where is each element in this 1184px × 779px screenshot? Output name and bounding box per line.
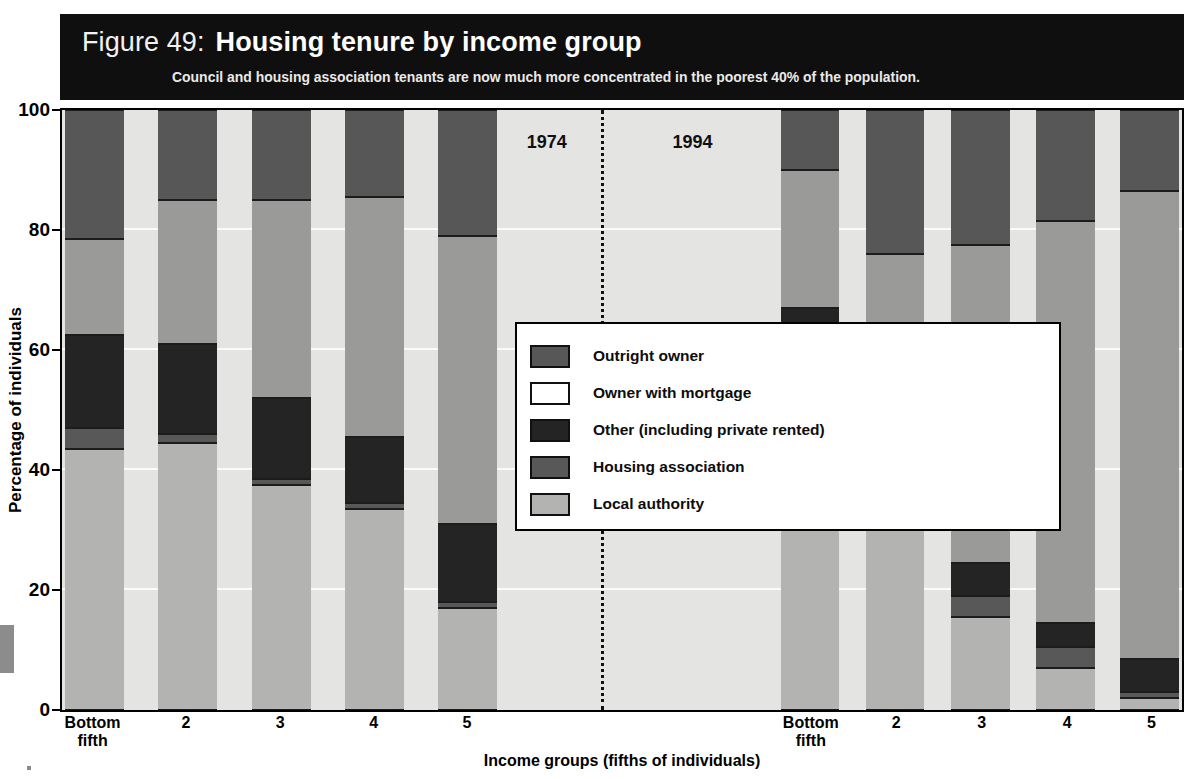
bar-segment-housing-association [65, 428, 123, 449]
bar-segment-owner-mortgage [158, 200, 216, 344]
legend-swatch-icon [530, 345, 570, 368]
legend-swatch-icon [530, 493, 570, 516]
page-corner-artifact [27, 766, 31, 770]
legend-item-other: Other (including private rented) [530, 410, 825, 450]
stacked-bar [345, 110, 403, 710]
plot-area: 19741994 Outright ownerOwner with mortga… [60, 108, 1184, 712]
x-tick-label: 2 [181, 714, 190, 732]
bar-segment-owner-mortgage [438, 236, 496, 524]
bar-segment-outright-owner [866, 110, 924, 254]
x-tick-label: 3 [276, 714, 285, 732]
y-tick-mark [52, 109, 60, 111]
bar-segment-owner-mortgage [65, 239, 123, 335]
stacked-bar [65, 110, 123, 710]
year-label-1974: 1974 [527, 132, 567, 153]
bar-segment-local-authority [345, 509, 403, 710]
legend-swatch-icon [530, 419, 570, 442]
stacked-bar [252, 110, 310, 710]
figure-header-banner: Figure 49:Housing tenure by income group… [60, 14, 1184, 100]
legend-item-local-authority: Local authority [530, 484, 704, 524]
bar-segment-outright-owner [951, 110, 1009, 245]
bar-segment-owner-mortgage [781, 170, 839, 308]
bar-segment-other [1036, 623, 1094, 647]
legend-label: Outright owner [593, 347, 704, 365]
x-axis-label: Income groups (fifths of individuals) [60, 752, 1184, 770]
y-tick-label: 20 [29, 579, 50, 601]
title-row: Figure 49:Housing tenure by income group [82, 27, 642, 58]
figure-subtitle: Council and housing association tenants … [172, 68, 920, 85]
bar-segment-other [65, 335, 123, 428]
legend-item-owner-with-mortgage: Owner with mortgage [530, 373, 751, 413]
gridline [62, 228, 1182, 230]
chart-legend: Outright ownerOwner with mortgageOther (… [515, 322, 1061, 531]
bar-segment-housing-association [158, 434, 216, 443]
x-tick-label: 3 [977, 714, 986, 732]
y-tick-label: 40 [29, 459, 50, 481]
x-tick-label: 2 [892, 714, 901, 732]
bar-segment-outright-owner [345, 110, 403, 197]
x-axis-ticks: Bottom fifth2345Bottom fifth2345 [60, 714, 1184, 754]
y-tick-label: 60 [29, 339, 50, 361]
bar-segment-local-authority [65, 449, 123, 710]
y-tick-label: 80 [29, 219, 50, 241]
bar-segment-owner-mortgage [252, 200, 310, 398]
legend-label: Local authority [593, 495, 704, 513]
y-tick-mark [52, 229, 60, 231]
bar-segment-local-authority [158, 443, 216, 710]
bar-segment-owner-mortgage [1120, 191, 1178, 659]
bar-segment-housing-association [1120, 692, 1178, 698]
bar-segment-outright-owner [781, 110, 839, 170]
bar-segment-outright-owner [1120, 110, 1178, 191]
bar-segment-local-authority [438, 608, 496, 710]
legend-item-outright-owner: Outright owner [530, 336, 704, 376]
x-tick-label: 5 [1147, 714, 1156, 732]
x-tick-label: 4 [369, 714, 378, 732]
bar-segment-local-authority [951, 617, 1009, 710]
bar-segment-other [252, 398, 310, 479]
bar-segment-local-authority [1036, 668, 1094, 710]
bar-segment-outright-owner [252, 110, 310, 200]
y-tick-mark [52, 589, 60, 591]
legend-label: Other (including private rented) [593, 421, 825, 439]
y-tick-mark [52, 469, 60, 471]
stacked-bar [438, 110, 496, 710]
y-tick-mark [52, 709, 60, 711]
bar-segment-other [158, 344, 216, 434]
y-axis-ticks: 020406080100 [0, 108, 60, 712]
bar-segment-housing-association [438, 602, 496, 608]
legend-label: Housing association [593, 458, 745, 476]
year-label-1994: 1994 [672, 132, 712, 153]
bar-segment-other [951, 563, 1009, 596]
legend-label: Owner with mortgage [593, 384, 751, 402]
bar-segment-housing-association [951, 596, 1009, 617]
bar-segment-other [438, 524, 496, 602]
legend-swatch-icon [530, 382, 570, 405]
x-tick-label: Bottom fifth [65, 714, 121, 750]
gridline [62, 588, 1182, 590]
legend-swatch-icon [530, 456, 570, 479]
y-tick-mark [52, 349, 60, 351]
page-title: Housing tenure by income group [216, 27, 642, 57]
bar-segment-local-authority [866, 509, 924, 710]
bar-segment-outright-owner [158, 110, 216, 200]
x-tick-label: 5 [462, 714, 471, 732]
y-tick-label: 0 [39, 699, 50, 721]
bar-segment-local-authority [1120, 698, 1178, 710]
legend-item-housing-association: Housing association [530, 447, 745, 487]
figure-container: Figure 49:Housing tenure by income group… [0, 0, 1184, 779]
bar-segment-local-authority [252, 485, 310, 710]
bar-segment-outright-owner [65, 110, 123, 239]
x-tick-label: Bottom fifth [783, 714, 839, 750]
bar-segment-outright-owner [1036, 110, 1094, 221]
y-tick-label: 100 [18, 99, 50, 121]
bar-segment-housing-association [252, 479, 310, 485]
bar-segment-housing-association [345, 503, 403, 509]
stacked-bar [1120, 110, 1178, 710]
bar-segment-other [345, 437, 403, 503]
figure-number-label: Figure 49: [82, 27, 205, 57]
stacked-bar [158, 110, 216, 710]
bar-segment-housing-association [1036, 647, 1094, 668]
bar-segment-outright-owner [438, 110, 496, 236]
x-tick-label: 4 [1063, 714, 1072, 732]
bar-segment-owner-mortgage [345, 197, 403, 437]
